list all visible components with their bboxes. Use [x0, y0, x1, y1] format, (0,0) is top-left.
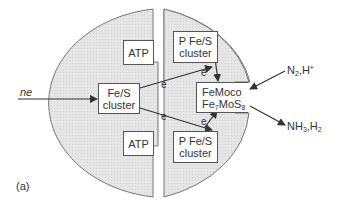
electron-label-2: e: [161, 112, 167, 122]
atp-box-bottom: ATP: [123, 131, 154, 156]
pfes-cluster-box-top: P Fe/S cluster: [173, 31, 218, 63]
substrate-label: N2,H+: [287, 64, 314, 76]
femoco-box: FeMoco Fe7MoS8: [196, 82, 248, 113]
fes-cluster-box: Fe/S cluster: [98, 83, 140, 114]
diagram-shapes: [0, 0, 337, 206]
electron-label-1: e: [161, 80, 167, 90]
electron-label-4: e: [201, 117, 207, 127]
nitrogenase-diagram: ATP ATP Fe/S cluster P Fe/S cluster P Fe…: [0, 0, 337, 206]
femoco-formula: Fe7MoS8: [202, 98, 245, 110]
electron-label-3: e: [201, 68, 207, 78]
pfes-cluster-box-bottom: P Fe/S cluster: [173, 131, 218, 163]
substrate-arrow: [250, 71, 285, 89]
input-label: ne: [20, 86, 32, 98]
atp-box-top: ATP: [123, 40, 154, 65]
product-arrow: [250, 106, 285, 125]
panel-label: (a): [16, 180, 29, 192]
product-label: NH3,H2: [287, 120, 322, 132]
